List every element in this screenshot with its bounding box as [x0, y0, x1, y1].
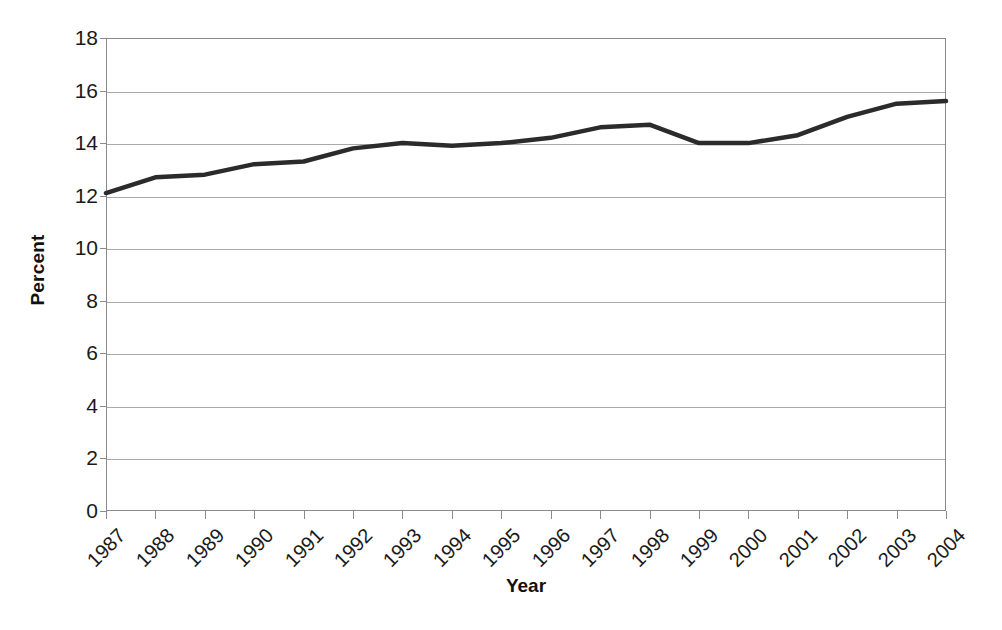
y-axis-tick-label: 2	[54, 446, 98, 470]
x-axis-tick-label: 2004	[923, 524, 971, 572]
y-axis-tick-label: 6	[54, 341, 98, 365]
x-axis-tick-mark	[353, 511, 354, 519]
x-axis-tick-mark	[748, 511, 749, 519]
x-axis-tick-mark	[600, 511, 601, 519]
x-axis-title: Year	[106, 575, 946, 597]
y-axis-tick-label: 8	[54, 289, 98, 313]
x-axis-tick-mark	[106, 511, 107, 519]
x-axis-tick-label: 2000	[725, 524, 773, 572]
y-axis-tick-label: 0	[54, 499, 98, 523]
x-axis-tick-label: 1990	[231, 524, 279, 572]
x-axis-tick-label: 1992	[330, 524, 378, 572]
x-axis-tick-mark	[551, 511, 552, 519]
x-axis-tick-label: 1999	[675, 524, 723, 572]
data-series-layer	[106, 38, 946, 511]
x-axis-tick-mark	[304, 511, 305, 519]
y-axis-tick-label: 16	[54, 79, 98, 103]
x-axis-tick-label: 1996	[527, 524, 575, 572]
y-axis-tick-label: 12	[54, 184, 98, 208]
line-chart: Percent 024681012141618 1987198819891990…	[0, 0, 1002, 630]
x-axis-tick-label: 1991	[280, 524, 328, 572]
x-axis-tick-label: 1997	[577, 524, 625, 572]
x-axis-tick-label: 1998	[626, 524, 674, 572]
x-axis-tick-label: 1994	[428, 524, 476, 572]
x-axis-tick-label: 1989	[181, 524, 229, 572]
x-axis-tick-mark	[897, 511, 898, 519]
x-axis-tick-mark	[155, 511, 156, 519]
x-axis-tick-label: 1993	[379, 524, 427, 572]
x-axis-tick-label: 1995	[478, 524, 526, 572]
x-axis-tick-mark	[254, 511, 255, 519]
y-axis-tick-label: 4	[54, 394, 98, 418]
x-axis-tick-label: 2002	[824, 524, 872, 572]
y-axis-tick-label: 18	[54, 26, 98, 50]
x-axis-tick-mark	[946, 511, 947, 519]
x-axis-tick-mark	[402, 511, 403, 519]
x-axis-tick-label: 2003	[873, 524, 921, 572]
x-axis-tick-mark	[205, 511, 206, 519]
y-axis-tick-label: 14	[54, 131, 98, 155]
x-axis-tick-mark	[650, 511, 651, 519]
x-axis-tick-label: 2001	[774, 524, 822, 572]
series-line-percent	[106, 101, 946, 193]
x-axis-tick-mark	[699, 511, 700, 519]
y-axis-tick-labels: 024681012141618	[40, 38, 98, 511]
x-axis-tick-label: 1987	[83, 524, 131, 572]
x-axis-tick-mark	[501, 511, 502, 519]
x-axis-tick-mark	[452, 511, 453, 519]
x-axis-tick-mark	[798, 511, 799, 519]
x-axis-tick-mark	[847, 511, 848, 519]
x-axis-tick-label: 1988	[132, 524, 180, 572]
y-axis-tick-label: 10	[54, 236, 98, 260]
